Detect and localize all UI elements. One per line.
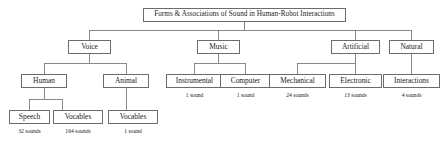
node-interactions[interactable]: Interactions — [383, 74, 440, 88]
node-root-label: Forms & Associations of Sound in Human-R… — [154, 11, 335, 18]
node-artificial[interactable]: Artificial — [331, 40, 380, 54]
node-voice[interactable]: Voice — [68, 40, 111, 54]
count-human-vocables-text: 164 sounds — [65, 128, 90, 134]
node-interactions-label: Interactions — [394, 77, 429, 84]
count-animal-vocables-text: 1 sound — [124, 128, 142, 134]
count-computer: 1 sound — [220, 93, 271, 99]
node-speech-label: Speech — [19, 113, 40, 120]
count-interactions-text: 4 sounds — [402, 92, 422, 98]
count-speech: 32 sounds — [6, 129, 53, 135]
count-computer-text: 1 sound — [237, 92, 255, 98]
node-electronic[interactable]: Electronic — [329, 74, 382, 88]
count-interactions: 4 sounds — [383, 93, 440, 99]
node-natural-label: Natural — [400, 43, 422, 50]
tree-diagram: Forms & Associations of Sound in Human-R… — [0, 0, 447, 146]
count-electronic-text: 13 sounds — [344, 92, 367, 98]
node-artificial-label: Artificial — [342, 43, 369, 50]
node-mechanical[interactable]: Mechanical — [269, 74, 326, 88]
node-human-vocables-label: Vocables — [65, 113, 92, 120]
count-speech-text: 32 sounds — [18, 128, 41, 134]
node-animal-label: Animal — [115, 77, 137, 84]
node-human[interactable]: Human — [21, 74, 67, 88]
node-instrumental[interactable]: Instrumental — [166, 74, 223, 88]
node-voice-label: Voice — [81, 43, 98, 50]
count-instrumental: 1 sound — [166, 93, 223, 99]
node-computer[interactable]: Computer — [220, 74, 271, 88]
count-electronic: 13 sounds — [329, 93, 382, 99]
node-mechanical-label: Mechanical — [280, 77, 314, 84]
node-animal-vocables[interactable]: Vocables — [108, 110, 158, 124]
count-instrumental-text: 1 sound — [186, 92, 204, 98]
node-speech[interactable]: Speech — [9, 110, 50, 124]
node-music[interactable]: Music — [197, 40, 240, 54]
node-animal-vocables-label: Vocables — [120, 113, 147, 120]
node-instrumental-label: Instrumental — [176, 77, 213, 84]
count-human-vocables: 164 sounds — [52, 129, 104, 135]
node-computer-label: Computer — [231, 77, 261, 84]
node-human-label: Human — [33, 77, 55, 84]
node-music-label: Music — [209, 43, 227, 50]
node-natural[interactable]: Natural — [389, 40, 434, 54]
count-animal-vocables: 1 sound — [108, 129, 158, 135]
node-root[interactable]: Forms & Associations of Sound in Human-R… — [143, 8, 346, 22]
count-mechanical-text: 24 sounds — [286, 92, 309, 98]
node-human-vocables[interactable]: Vocables — [53, 110, 103, 124]
node-animal[interactable]: Animal — [103, 74, 149, 88]
count-mechanical: 24 sounds — [269, 93, 326, 99]
node-electronic-label: Electronic — [340, 77, 370, 84]
